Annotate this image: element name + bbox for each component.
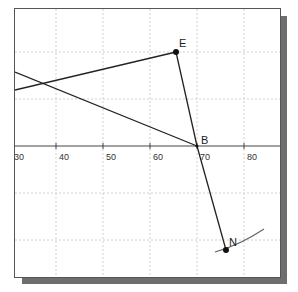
point-label-E: E <box>179 37 186 49</box>
line-to-B <box>15 72 197 146</box>
tick-label-30: 30 <box>14 152 24 162</box>
point-label-N: N <box>229 236 237 248</box>
tick-label-40: 40 <box>59 152 69 162</box>
tick-label-50: 50 <box>106 152 116 162</box>
geometry-canvas: E B N 30 40 50 60 70 80 <box>0 0 298 292</box>
point-label-B: B <box>201 134 208 146</box>
line-to-E <box>15 52 176 90</box>
tick-label-70: 70 <box>200 152 210 162</box>
point-B[interactable] <box>196 145 199 148</box>
point-E[interactable] <box>173 49 179 55</box>
tick-label-80: 80 <box>247 152 257 162</box>
tick-labels: 30 40 50 60 70 80 <box>14 152 257 162</box>
tick-label-60: 60 <box>153 152 163 162</box>
segments <box>15 52 226 250</box>
grid-lines <box>15 9 280 277</box>
